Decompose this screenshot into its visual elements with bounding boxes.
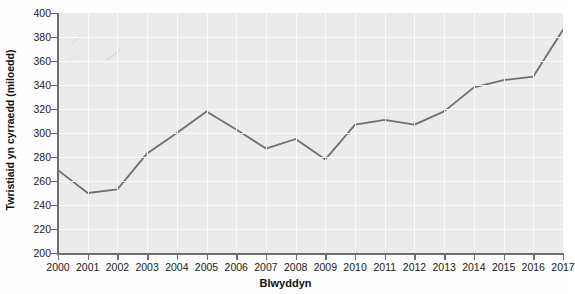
gridline-vertical [236, 13, 237, 253]
y-tick-mark [51, 157, 57, 158]
x-tick-label: 2009 [314, 261, 337, 273]
x-tick-mark [533, 254, 534, 260]
x-tick-label: 2010 [343, 261, 366, 273]
x-axis-line [57, 253, 564, 255]
y-tick-label: 320 [33, 103, 51, 115]
gridline-vertical [88, 13, 89, 253]
x-tick-mark [58, 254, 59, 260]
y-tick-mark [51, 85, 57, 86]
y-tick-label: 200 [33, 247, 51, 259]
gridline-horizontal [58, 133, 563, 134]
y-tick-label: 300 [33, 127, 51, 139]
y-tick-mark [51, 61, 57, 62]
x-tick-mark [414, 254, 415, 260]
y-axis-title-label: Twristiaid yn cyrraedd (miloedd) [4, 50, 16, 211]
y-tick-label: 260 [33, 175, 51, 187]
gridline-vertical [414, 13, 415, 253]
x-tick-mark [117, 254, 118, 260]
x-tick-mark [88, 254, 89, 260]
x-tick-label: 2012 [403, 261, 426, 273]
y-axis-line [57, 13, 59, 254]
gridline-horizontal [58, 229, 563, 230]
y-tick-label: 340 [33, 79, 51, 91]
plot-area [58, 13, 563, 253]
y-tick-mark [51, 205, 57, 206]
y-tick-mark [51, 229, 57, 230]
gridline-vertical [266, 13, 267, 253]
x-tick-mark [147, 254, 148, 260]
x-tick-label: 2014 [462, 261, 485, 273]
x-tick-label: 2002 [106, 261, 129, 273]
gridline-vertical [325, 13, 326, 253]
x-tick-mark [207, 254, 208, 260]
x-tick-label: 2016 [522, 261, 545, 273]
x-tick-mark [385, 254, 386, 260]
x-tick-mark [504, 254, 505, 260]
gridline-vertical [504, 13, 505, 253]
gridline-vertical [533, 13, 534, 253]
y-tick-label: 220 [33, 223, 51, 235]
x-tick-label: 2013 [432, 261, 455, 273]
gridline-horizontal [58, 205, 563, 206]
y-tick-label: 280 [33, 151, 51, 163]
y-tick-mark [51, 37, 57, 38]
gridline-vertical [117, 13, 118, 253]
y-tick-mark [51, 181, 57, 182]
gridline-horizontal [58, 109, 563, 110]
x-tick-mark [266, 254, 267, 260]
x-axis-title: Blwyddyn [0, 277, 571, 289]
x-tick-mark [236, 254, 237, 260]
x-tick-label: 2011 [373, 261, 396, 273]
y-tick-mark [51, 133, 57, 134]
gridline-vertical [355, 13, 356, 253]
x-tick-label: 2005 [195, 261, 218, 273]
gridline-horizontal [58, 157, 563, 158]
y-tick-mark [51, 13, 57, 14]
gridline-vertical [147, 13, 148, 253]
x-tick-label: 2000 [46, 261, 69, 273]
x-tick-label: 2008 [284, 261, 307, 273]
y-tick-label: 360 [33, 55, 51, 67]
y-axis-title: Twristiaid yn cyrraedd (miloedd) [0, 0, 20, 260]
x-tick-label: 2006 [225, 261, 248, 273]
gridline-horizontal [58, 85, 563, 86]
x-tick-mark [355, 254, 356, 260]
gridline-horizontal [58, 61, 563, 62]
gridline-vertical [474, 13, 475, 253]
gridline-vertical [444, 13, 445, 253]
y-tick-label: 400 [33, 7, 51, 19]
x-tick-label: 2017 [551, 261, 574, 273]
x-tick-mark [325, 254, 326, 260]
y-tick-label: 240 [33, 199, 51, 211]
x-tick-label: 2001 [76, 261, 99, 273]
gridline-horizontal [58, 37, 563, 38]
gridline-horizontal [58, 181, 563, 182]
gridline-vertical [177, 13, 178, 253]
x-tick-label: 2004 [165, 261, 188, 273]
x-tick-mark [444, 254, 445, 260]
gridline-vertical [296, 13, 297, 253]
gridline-vertical [385, 13, 386, 253]
y-axis-tick-labels: 200220240260280300320340360380400 [20, 0, 55, 266]
x-tick-label: 2015 [492, 261, 515, 273]
x-tick-label: 2007 [254, 261, 277, 273]
x-tick-mark [296, 254, 297, 260]
x-axis-tick-labels: 2000200120022003200420052006200720082009… [0, 261, 571, 277]
x-tick-mark [474, 254, 475, 260]
y-tick-label: 380 [33, 31, 51, 43]
gridline-vertical [207, 13, 208, 253]
x-tick-label: 2003 [135, 261, 158, 273]
y-tick-mark [51, 109, 57, 110]
y-tick-mark [51, 253, 57, 254]
x-tick-mark [177, 254, 178, 260]
x-tick-mark [563, 254, 564, 260]
